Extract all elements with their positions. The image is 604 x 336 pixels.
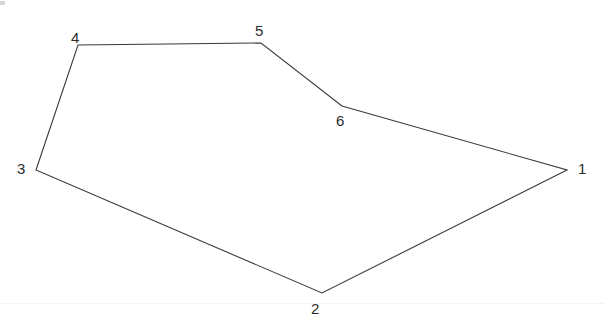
vertex-label-3: 3 (17, 161, 25, 176)
vertex-label-6: 6 (336, 113, 344, 128)
scan-line-artifact (0, 303, 604, 304)
vertex-label-1: 1 (578, 161, 586, 176)
vertex-label-2: 2 (311, 301, 319, 316)
vertex-label-4: 4 (71, 30, 79, 45)
polygon-svg (0, 0, 604, 336)
polygon-outline (36, 43, 567, 293)
vertex-label-5: 5 (255, 23, 263, 38)
polygon-figure-canvas: 1 2 3 4 5 6 (0, 0, 604, 336)
